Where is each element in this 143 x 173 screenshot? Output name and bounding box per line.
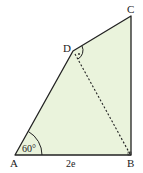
geometry-figure: A B C D 60° 2e — [0, 0, 143, 173]
angle-a-label: 60° — [22, 143, 36, 154]
label-d: D — [63, 42, 71, 54]
quadrilateral-diagram: A B C D 60° 2e — [0, 0, 143, 173]
label-c: C — [127, 3, 134, 15]
right-angle-dot — [78, 53, 80, 55]
label-a: A — [10, 157, 18, 169]
label-b: B — [127, 157, 134, 169]
side-ab-label: 2e — [66, 158, 76, 169]
